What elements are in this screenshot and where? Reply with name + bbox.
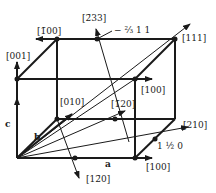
label-001: [001]	[6, 52, 30, 61]
label-111: [111]	[182, 34, 206, 43]
label-010: [010]	[60, 98, 84, 107]
label-100-bottom: [100]	[146, 163, 170, 172]
crystal-diagram: [1̄00] [2̄33] − ⅔ 1 1 [111] [001] [100] …	[0, 0, 216, 193]
label-120: [1̄20]	[111, 100, 135, 109]
label-m233: [2̄33]	[82, 14, 106, 23]
label-1half0: 1 ½ 0	[157, 142, 183, 151]
label-210: [210]	[183, 121, 207, 130]
label-m100: [1̄00]	[37, 27, 61, 36]
axis-b-label: b	[34, 133, 40, 142]
axis-a-label: a	[105, 160, 111, 169]
axis-c-label: c	[5, 120, 10, 129]
label-1m20: [12̄0]	[86, 175, 110, 184]
label-100-top: [100]	[141, 86, 165, 95]
label-m2311: − ⅔ 1 1	[114, 26, 150, 35]
